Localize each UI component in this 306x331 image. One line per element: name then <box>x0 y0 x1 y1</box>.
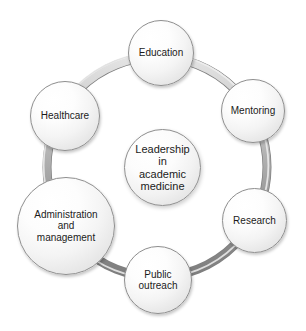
node-center-leadership: Leadership in academic medicine <box>124 129 201 206</box>
node-education-label: Education <box>137 47 185 58</box>
leadership-cycle-diagram: Education Mentoring Research Public outr… <box>0 0 306 331</box>
node-public-outreach[interactable]: Public outreach <box>124 246 192 314</box>
node-center-label: Leadership in academic medicine <box>133 143 191 192</box>
node-mentoring[interactable]: Mentoring <box>221 79 285 143</box>
node-public-outreach-label: Public outreach <box>137 269 180 291</box>
node-administration-and-management[interactable]: Administration and management <box>17 177 115 275</box>
node-healthcare[interactable]: Healthcare <box>30 81 100 151</box>
node-education[interactable]: Education <box>128 20 194 86</box>
node-research[interactable]: Research <box>222 188 287 253</box>
node-healthcare-label: Healthcare <box>39 110 91 121</box>
node-mentoring-label: Mentoring <box>229 105 277 116</box>
node-research-label: Research <box>231 215 278 226</box>
node-administration-and-management-label: Administration and management <box>32 209 99 243</box>
